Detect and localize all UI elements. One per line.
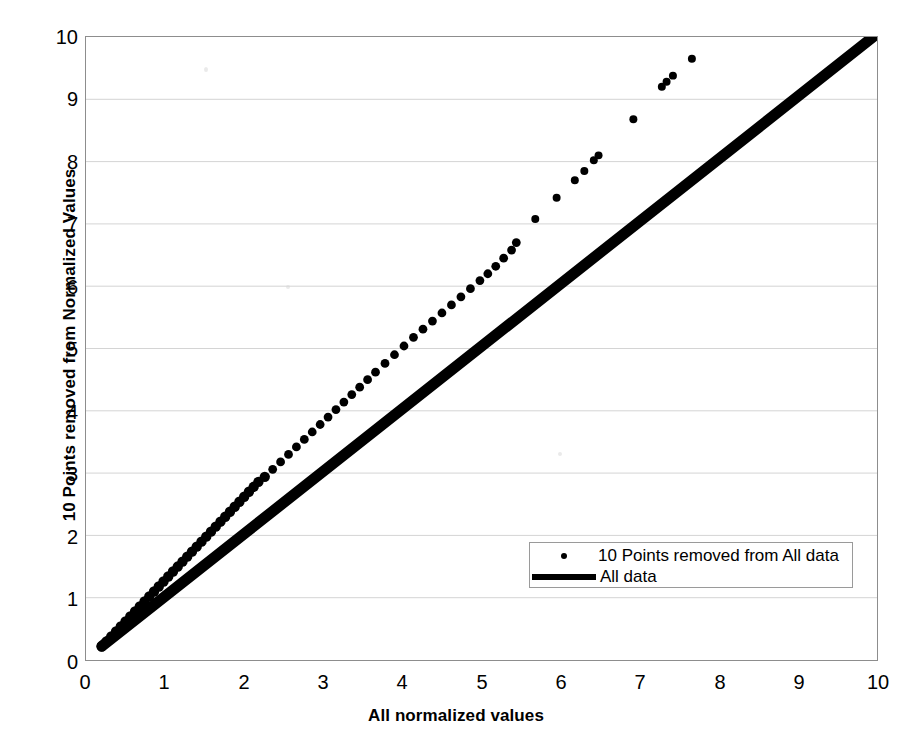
legend-label-scatter: 10 Points removed from All data: [598, 545, 839, 566]
y-axis-title-container: 10 Points removed from Normalized Values: [0, 0, 34, 741]
y-tick-2: 2: [44, 527, 78, 547]
x-tick-10: 10: [858, 672, 898, 692]
x-tick-2: 2: [224, 672, 264, 692]
y-tick-8: 8: [44, 152, 78, 172]
y-tick-6: 6: [44, 277, 78, 297]
line-swatch-icon: [530, 574, 600, 580]
y-tick-0: 0: [44, 652, 78, 672]
y-tick-3: 3: [44, 464, 78, 484]
scan-artifact: [558, 452, 562, 456]
y-tick-1: 1: [44, 589, 78, 609]
y-tick-4: 4: [44, 402, 78, 422]
x-axis-tick-labels: 0 1 2 3 4 5 6 7 8 9 10: [0, 672, 912, 698]
x-tick-4: 4: [382, 672, 422, 692]
x-tick-6: 6: [541, 672, 581, 692]
x-tick-1: 1: [144, 672, 184, 692]
x-tick-9: 9: [779, 672, 819, 692]
x-tick-8: 8: [700, 672, 740, 692]
plot-area: 10 Points removed from All data All data: [85, 36, 878, 661]
legend-label-line: All data: [600, 566, 657, 587]
y-tick-10: 10: [44, 27, 78, 47]
dot-marker-icon: [530, 553, 598, 559]
scan-artifact: [204, 67, 208, 72]
scatter-chart: 10 Points removed from Normalized Values…: [0, 0, 912, 741]
x-axis-title: All normalized values: [0, 706, 912, 726]
legend-entry-scatter: 10 Points removed from All data: [530, 545, 852, 566]
y-tick-5: 5: [44, 339, 78, 359]
x-tick-5: 5: [462, 672, 502, 692]
chart-legend: 10 Points removed from All data All data: [529, 542, 853, 588]
scan-artifact: [286, 285, 290, 289]
x-tick-7: 7: [620, 672, 660, 692]
y-axis-tick-labels: 0 1 2 3 4 5 6 7 8 9 10: [34, 0, 78, 741]
legend-entry-line: All data: [530, 566, 852, 587]
x-tick-0: 0: [65, 672, 105, 692]
y-tick-9: 9: [44, 89, 78, 109]
y-tick-7: 7: [44, 214, 78, 234]
x-tick-3: 3: [303, 672, 343, 692]
